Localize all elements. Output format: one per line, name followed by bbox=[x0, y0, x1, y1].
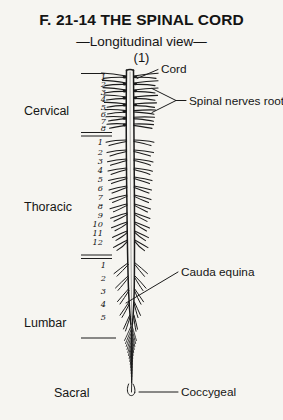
segment-number-l1: 1 bbox=[94, 261, 106, 269]
segment-number-l3: 3 bbox=[94, 287, 106, 295]
segment-number-t1: 1 bbox=[91, 138, 103, 146]
callout-coccygeal: Coccygeal bbox=[181, 385, 236, 399]
region-label-sacral: Sacral bbox=[54, 386, 89, 400]
thoracic-nerve-roots bbox=[106, 140, 154, 251]
region-label-cervical: Cervical bbox=[24, 104, 69, 118]
segment-number-t7: 7 bbox=[91, 193, 103, 201]
segment-number-t12: 12 bbox=[88, 238, 103, 246]
segment-number-t5: 5 bbox=[91, 175, 103, 183]
segment-number-t3: 3 bbox=[91, 157, 103, 165]
cervical-nerve-roots bbox=[102, 73, 159, 128]
segment-number-t9: 9 bbox=[91, 211, 103, 219]
callout-cord: Cord bbox=[161, 62, 187, 76]
segment-number-l2: 2 bbox=[94, 274, 106, 282]
segment-number-t4: 4 bbox=[91, 166, 103, 174]
segment-number-t11: 11 bbox=[88, 229, 103, 237]
segment-number-l4: 4 bbox=[94, 300, 106, 308]
callout-spinal-nerves-roots: Spinal nerves roots bbox=[189, 94, 283, 108]
region-label-thoracic: Thoracic bbox=[24, 200, 72, 214]
sacral-nerve-roots bbox=[125, 327, 137, 383]
spinal-cord-figure: F. 21-14 THE SPINAL CORD —Longitudinal v… bbox=[0, 0, 283, 420]
callout-cauda-equina: Cauda equina bbox=[181, 265, 254, 279]
segment-number-t6: 6 bbox=[91, 184, 103, 192]
segment-number-t10: 10 bbox=[88, 220, 103, 228]
segment-number-t8: 8 bbox=[91, 202, 103, 210]
segment-number-l5: 5 bbox=[94, 313, 106, 321]
segment-number-t2: 2 bbox=[91, 148, 103, 156]
segment-number-c8: 8 bbox=[94, 124, 106, 132]
region-label-lumbar: Lumbar bbox=[24, 316, 66, 330]
